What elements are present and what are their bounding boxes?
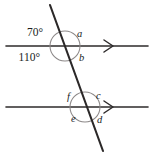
transversal-line bbox=[50, 5, 103, 151]
angle-label-b: b bbox=[79, 52, 84, 63]
geometry-canvas: 70° 110° a b f c e d bbox=[0, 0, 154, 159]
angle-label-e: e bbox=[71, 113, 76, 124]
angle-label-110: 110° bbox=[19, 51, 41, 63]
angle-label-70: 70° bbox=[27, 26, 44, 38]
geometry-diagram: 70° 110° a b f c e d bbox=[0, 0, 154, 159]
angle-label-c: c bbox=[96, 90, 101, 101]
angle-label-d: d bbox=[97, 114, 103, 125]
angle-label-a: a bbox=[77, 28, 82, 39]
